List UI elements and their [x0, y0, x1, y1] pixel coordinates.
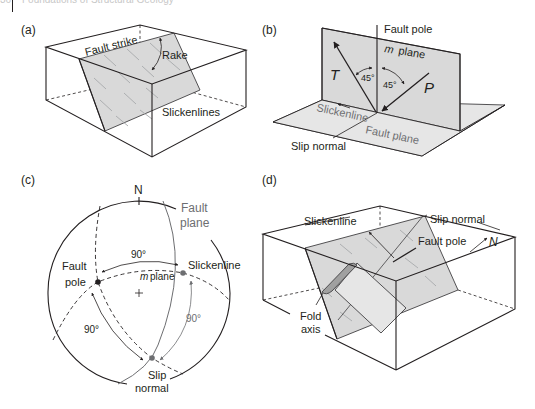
fault-pole-label: Fault pole — [418, 235, 466, 247]
panel-a-label: (a) — [21, 23, 36, 37]
angle-left-label: 45° — [361, 73, 375, 83]
angle-right-label: 90° — [186, 313, 201, 324]
p-axis-label: P — [424, 79, 434, 96]
slip-normal-label-2: normal — [135, 382, 169, 394]
north-arrow-icon — [470, 238, 487, 252]
rake-label: Rake — [162, 49, 188, 61]
north-label: N — [134, 183, 143, 197]
panel-a: (a) Fault strike Rake Slicken — [21, 23, 246, 157]
fault-plane-great-circle — [118, 201, 175, 384]
panel-c-label: (c) — [21, 173, 35, 187]
slip-normal-leader — [425, 215, 427, 216]
north-label: N — [489, 235, 498, 249]
slickenline-label: Slickenline — [188, 259, 241, 271]
slickenline-label: Slickenline — [304, 215, 357, 227]
fold-axis-leader — [316, 293, 323, 305]
angle-right-label: 45° — [383, 80, 397, 90]
figure-canvas: (a) Fault strike Rake Slicken — [0, 0, 535, 409]
fault-pole-point — [95, 279, 101, 285]
fault-plane-label-1: Fault — [181, 201, 208, 215]
slip-normal-point — [149, 355, 155, 361]
fault-pole-label-2: pole — [65, 276, 86, 288]
m-plane-word: plane — [150, 271, 175, 282]
angle-left-label: 90° — [84, 324, 99, 335]
slip-normal-label: Slip normal — [430, 213, 485, 225]
fault-pole-label: Fault pole — [384, 23, 432, 35]
slip-normal-label-1: Slip — [148, 369, 166, 381]
block-hidden-edge — [458, 290, 515, 309]
fold-axis-label-2: axis — [301, 323, 321, 335]
angle-top-label: 90° — [131, 249, 146, 260]
primitive-circle — [48, 201, 176, 384]
angle-arrow-left — [92, 293, 143, 360]
panel-d-label: (d) — [262, 173, 277, 187]
slickenlines-label: Slickenlines — [162, 106, 221, 118]
fold-axis-label-1: Fold — [300, 310, 321, 322]
panel-c: (c) N Fault plane Fault pole Slickenline… — [21, 173, 241, 394]
panel-d: (d) — [262, 173, 515, 370]
m-plane-m: m — [140, 271, 148, 282]
panel-b-label: (b) — [262, 23, 277, 37]
panel-b: (b) Fault pole m plane T P 45° 45° Slick… — [262, 23, 505, 156]
fault-plane-label-2: plane — [180, 216, 210, 230]
fault-pole-label-1: Fault — [62, 260, 86, 272]
slickenline-point — [180, 270, 186, 276]
slip-normal-label: Slip normal — [291, 140, 346, 152]
